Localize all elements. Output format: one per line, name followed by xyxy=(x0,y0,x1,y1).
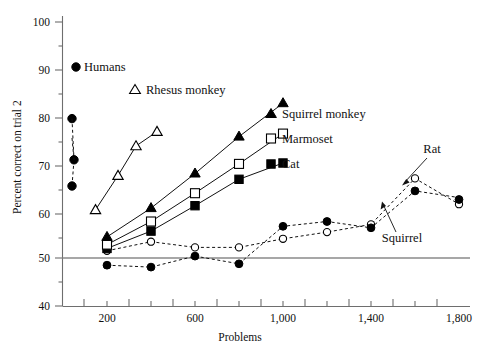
humans-label: Humans xyxy=(84,60,126,74)
y-tick-label: 100 xyxy=(33,16,51,28)
cat-label: Cat xyxy=(282,157,300,171)
chart-canvas: 100 90 80 70 60 50 40 Percent correct on… xyxy=(0,0,483,347)
y-tick-label: 40 xyxy=(39,300,51,312)
y-tick-label: 70 xyxy=(39,160,51,172)
y-tick-label: 50 xyxy=(39,252,51,264)
chart-figure: 100 90 80 70 60 50 40 Percent correct on… xyxy=(0,0,483,347)
chart-background xyxy=(0,0,483,347)
squirrel-label: Squirrel xyxy=(382,231,423,245)
y-tick-label: 90 xyxy=(39,64,51,76)
marmoset-label: Marmoset xyxy=(282,132,333,146)
squirrel-monkey-label: Squirrel monkey xyxy=(282,107,366,121)
x-tick-label: 1,800 xyxy=(446,312,472,325)
x-tick-label: 1,000 xyxy=(270,312,296,325)
x-tick-label: 1,400 xyxy=(358,312,384,325)
rhesus-monkey-label: Rhesus monkey xyxy=(146,83,226,97)
x-tick-label: 600 xyxy=(186,312,204,324)
marmoset-key-marker xyxy=(267,134,276,143)
humans-key-marker xyxy=(72,63,80,71)
x-axis-title: Problems xyxy=(218,331,262,343)
cat-key-marker xyxy=(267,160,275,168)
y-axis-title: Percent correct on trial 2 xyxy=(11,100,23,214)
rat-label: Rat xyxy=(423,142,441,156)
y-tick-label: 80 xyxy=(39,112,51,124)
y-tick-label: 60 xyxy=(39,208,51,220)
x-tick-label: 200 xyxy=(98,312,116,324)
